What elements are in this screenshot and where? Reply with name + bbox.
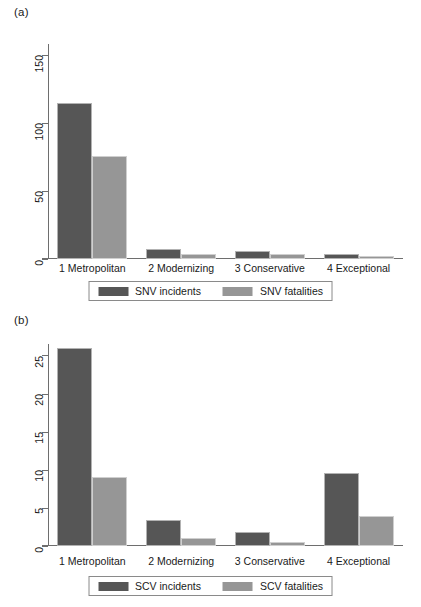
- bar: [92, 156, 127, 259]
- legend-item: SCV incidents: [98, 580, 201, 592]
- bar-group: [57, 344, 127, 546]
- x-axis-label: 1 Metropolitan: [59, 555, 126, 567]
- plot-area-a: 050100150: [48, 44, 403, 259]
- bar-group: [235, 44, 305, 259]
- panel-a-label: (a): [14, 6, 29, 18]
- bar-series-a: [48, 44, 403, 259]
- x-axis-label: 2 Modernizing: [148, 262, 214, 274]
- bar-group: [57, 44, 127, 259]
- y-tick-label: 15: [33, 432, 45, 444]
- x-axis-label: 3 Conservative: [235, 262, 305, 274]
- x-axis-label: 3 Conservative: [235, 555, 305, 567]
- legend-label: SCV fatalities: [260, 580, 323, 592]
- bar: [181, 538, 216, 546]
- bar: [181, 254, 216, 259]
- y-tick-a-0: 0: [42, 259, 48, 260]
- bar: [57, 348, 92, 546]
- plot-area-b: 0510152025: [48, 344, 403, 546]
- bar: [235, 251, 270, 259]
- legend-a: SNV incidentsSNV fatalities: [88, 281, 333, 301]
- bar-series-b: [48, 344, 403, 546]
- y-tick-label: 0: [33, 260, 45, 266]
- y-tick-label: 10: [33, 470, 45, 482]
- x-axis-label: 4 Exceptional: [327, 262, 390, 274]
- y-tick-label: 25: [33, 356, 45, 368]
- bar-group: [146, 44, 216, 259]
- x-axis-label: 1 Metropolitan: [59, 262, 126, 274]
- x-axis-labels-a: 1 Metropolitan2 Modernizing3 Conservativ…: [48, 262, 403, 278]
- legend-b: SCV incidentsSCV fatalities: [88, 576, 333, 596]
- y-tick-label: 0: [33, 547, 45, 553]
- y-tick-label: 150: [33, 55, 45, 73]
- bar: [146, 249, 181, 259]
- legend-label: SCV incidents: [135, 580, 201, 592]
- y-tick-label: 100: [33, 123, 45, 141]
- bar: [359, 516, 394, 546]
- x-axis-labels-b: 1 Metropolitan2 Modernizing3 Conservativ…: [48, 555, 403, 571]
- legend-item: SNV incidents: [98, 285, 201, 297]
- x-axis-label: 4 Exceptional: [327, 555, 390, 567]
- y-tick-label: 20: [33, 394, 45, 406]
- legend-swatch: [98, 582, 128, 591]
- legend-swatch: [98, 287, 128, 296]
- bar-group: [146, 344, 216, 546]
- legend-label: SNV incidents: [135, 285, 201, 297]
- legend-item: SNV fatalities: [223, 285, 323, 297]
- chart-panel-b: (b) 0510152025 1 Metropolitan2 Modernizi…: [0, 308, 421, 607]
- bar: [57, 103, 92, 259]
- y-tick-label: 5: [33, 508, 45, 514]
- bar: [324, 473, 359, 546]
- x-axis-label: 2 Modernizing: [148, 555, 214, 567]
- bar: [270, 254, 305, 259]
- legend-item: SCV fatalities: [223, 580, 323, 592]
- legend-swatch: [223, 582, 253, 591]
- bar: [92, 477, 127, 546]
- y-tick-label: 50: [33, 191, 45, 203]
- bar: [324, 254, 359, 259]
- bar-group: [324, 344, 394, 546]
- bar: [359, 256, 394, 259]
- bar: [235, 532, 270, 546]
- panel-b-label: (b): [14, 314, 29, 326]
- y-tick-b-0: 0: [42, 546, 48, 547]
- bar: [270, 542, 305, 546]
- chart-panel-a: (a) 050100150 1 Metropolitan2 Modernizin…: [0, 0, 421, 308]
- bar-group: [235, 344, 305, 546]
- legend-swatch: [223, 287, 253, 296]
- legend-label: SNV fatalities: [260, 285, 323, 297]
- bar-group: [324, 44, 394, 259]
- bar: [146, 520, 181, 546]
- figure-root: (a) 050100150 1 Metropolitan2 Modernizin…: [0, 0, 421, 607]
